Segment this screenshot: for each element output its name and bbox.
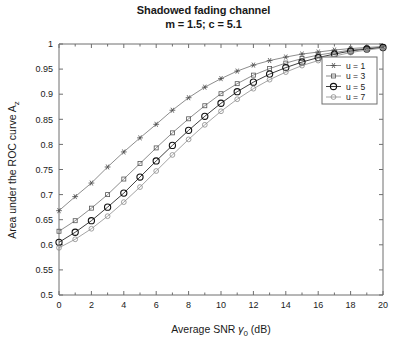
- legend-item-label-4[interactable]: u = 7: [346, 92, 365, 102]
- x-tick-label: 10: [216, 300, 226, 310]
- x-tick-label: 4: [121, 300, 126, 310]
- y-tick-label: 0.95: [35, 64, 53, 74]
- plot-area: 02468101214161820 0.50.550.60.650.70.750…: [0, 0, 407, 344]
- y-tick-label: 0.5: [40, 290, 53, 300]
- x-tick-label: 12: [248, 300, 258, 310]
- y-tick-label: 0.55: [35, 265, 53, 275]
- y-tick-label: 0.85: [35, 115, 53, 125]
- x-tick-label: 0: [56, 300, 61, 310]
- x-tick-label: 6: [154, 300, 159, 310]
- legend-item-label-2[interactable]: u = 3: [346, 71, 365, 81]
- figure-canvas: Shadowed fading channel m = 1.5; c = 5.1…: [0, 0, 407, 344]
- y-tick-label: 0.65: [35, 215, 53, 225]
- x-tick-label: 8: [186, 300, 191, 310]
- x-axis-label: Average SNR γ0 (dB): [171, 323, 270, 338]
- marker-star: [218, 76, 224, 81]
- y-axis-label: Area under the ROC curve Az: [6, 101, 21, 239]
- x-tick-label: 2: [89, 300, 94, 310]
- legend[interactable]: u = 1u = 3u = 5u = 7: [322, 57, 377, 104]
- marker-star: [234, 69, 240, 74]
- y-tick-label: 0.6: [40, 240, 53, 250]
- y-tick-label: 0.7: [40, 190, 53, 200]
- marker-star: [299, 52, 305, 57]
- y-tick-label: 0.75: [35, 165, 53, 175]
- legend-item-label-3[interactable]: u = 5: [346, 82, 365, 92]
- x-tick-label: 14: [281, 300, 291, 310]
- x-tick-label: 20: [378, 300, 388, 310]
- y-tick-label: 0.8: [40, 140, 53, 150]
- marker-star: [283, 55, 289, 60]
- y-tick-label: 1: [48, 39, 53, 49]
- legend-item-label-1[interactable]: u = 1: [346, 61, 365, 71]
- x-tick-label: 18: [346, 300, 356, 310]
- marker-star: [267, 58, 273, 63]
- y-tick-label: 0.9: [40, 89, 53, 99]
- x-tick-label: 16: [313, 300, 323, 310]
- marker-star: [251, 63, 257, 68]
